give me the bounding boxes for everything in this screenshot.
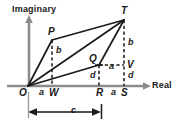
segment-label-a-RS: a — [111, 88, 116, 97]
segment-label-c-OR: c — [71, 106, 76, 115]
segment-OQ — [28, 65, 99, 86]
segment-PT — [52, 20, 124, 40]
dimension-c-arrow-right — [92, 108, 101, 116]
real-axis-arrowhead — [143, 82, 151, 90]
dimension-c-arrow-left — [28, 108, 37, 116]
figure-canvas — [0, 0, 173, 132]
point-label-Q: Q — [89, 54, 97, 64]
segment-label-b-TS: b — [128, 38, 134, 47]
point-label-R: R — [96, 88, 103, 98]
point-label-T: T — [121, 6, 127, 16]
segment-label-a-QV: a — [109, 62, 114, 71]
imaginary-axis-arrowhead — [25, 15, 33, 23]
point-label-P: P — [48, 27, 55, 37]
real-axis-label: Real — [152, 81, 172, 90]
segment-label-a-OW: a — [39, 88, 44, 97]
point-label-O: O — [19, 88, 27, 98]
segment-label-d-QR: d — [90, 71, 96, 80]
segment-label-d-VS: d — [128, 71, 134, 80]
segment-label-b-PW: b — [56, 46, 62, 55]
complex-plane-parallelogram-figure: Imaginary Real O P T Q V W R S a b b a d… — [0, 0, 173, 132]
imaginary-axis-label: Imaginary — [12, 5, 56, 14]
point-label-V: V — [127, 60, 134, 70]
point-label-W: W — [49, 88, 58, 98]
segment-OT — [28, 20, 124, 86]
point-label-S: S — [121, 88, 128, 98]
